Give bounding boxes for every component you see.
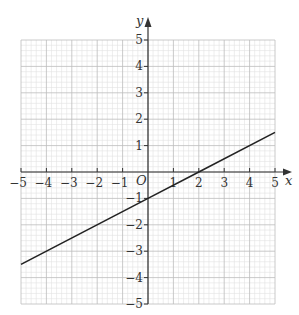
y-tick-label: 2: [135, 112, 143, 126]
y-tick-label: 1: [135, 139, 143, 153]
x-tick-label: −5: [9, 176, 27, 190]
y-tick-label: 3: [135, 86, 143, 100]
y-tick-label: −3: [125, 244, 143, 258]
y-tick-label: −1: [125, 191, 143, 205]
x-tick-label: 4: [246, 176, 254, 190]
x-axis-label: x: [285, 173, 293, 188]
x-tick-label: −1: [111, 176, 129, 190]
origin-label: O: [136, 173, 147, 188]
y-axis-arrow-icon: [145, 17, 152, 27]
y-tick-label: −2: [125, 218, 143, 232]
x-tick-label: 2: [195, 176, 203, 190]
y-tick-label: 4: [135, 59, 143, 73]
y-axis-label: y: [135, 13, 144, 28]
x-tick-label: −3: [60, 176, 78, 190]
x-tick-label: 5: [271, 176, 279, 190]
y-tick-label: 5: [135, 33, 143, 47]
y-tick-label: −4: [125, 271, 143, 285]
x-tick-label: −4: [35, 176, 53, 190]
coordinate-plane: −5−4−3−2−11234554321−1−2−3−4−5 x y O: [0, 0, 299, 315]
y-tick-label: −5: [125, 297, 143, 311]
x-tick-label: 3: [220, 176, 228, 190]
x-tick-label: −2: [85, 176, 103, 190]
